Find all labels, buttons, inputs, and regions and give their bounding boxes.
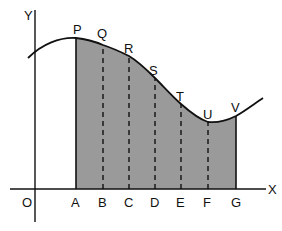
- label-T: T: [176, 89, 184, 104]
- label-G: G: [231, 195, 241, 210]
- y-axis-label: Y: [24, 8, 33, 23]
- label-V: V: [231, 100, 240, 115]
- label-S: S: [149, 63, 158, 78]
- label-Q: Q: [97, 26, 107, 41]
- label-A: A: [71, 195, 80, 210]
- label-C: C: [124, 195, 133, 210]
- origin-label: O: [22, 195, 32, 210]
- label-E: E: [176, 195, 185, 210]
- label-P: P: [73, 22, 82, 37]
- x-axis-label: X: [268, 182, 277, 197]
- label-R: R: [124, 41, 133, 56]
- label-D: D: [150, 195, 159, 210]
- label-B: B: [98, 195, 107, 210]
- label-F: F: [203, 195, 211, 210]
- label-U: U: [203, 107, 212, 122]
- area-under-curve-diagram: Y X O A B C D E F G P Q R S T U V: [0, 0, 282, 231]
